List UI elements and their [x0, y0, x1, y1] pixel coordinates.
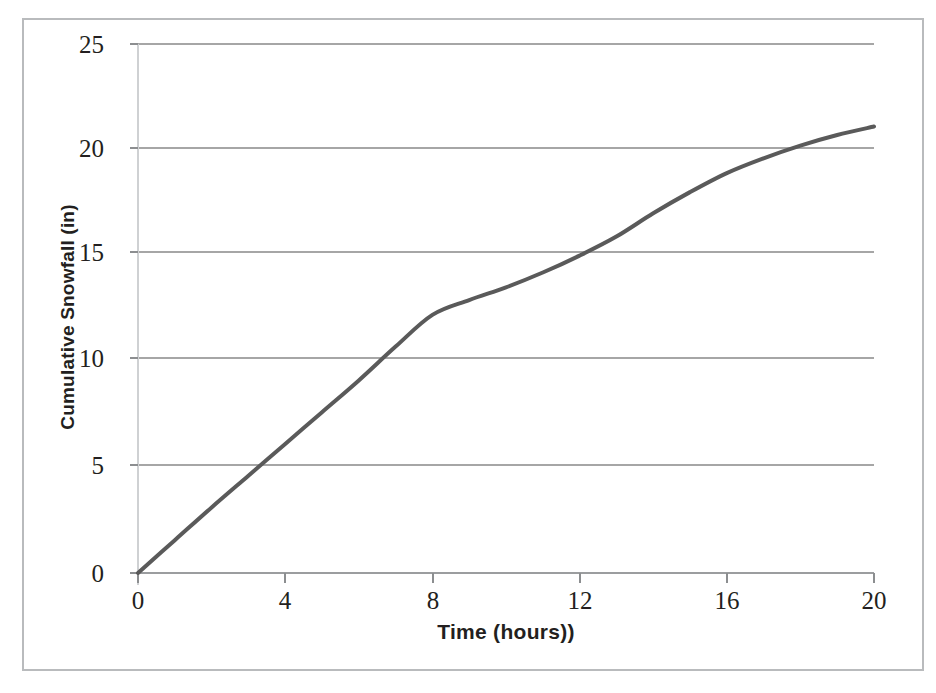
chart-svg-canvas: [0, 0, 936, 693]
chart-plot-area: 25 20 15 10 5 0 0 4 8 12 16 20 Cumulativ…: [0, 0, 936, 693]
y-axis-ticks: [130, 44, 138, 573]
gridlines-horizontal: [138, 44, 874, 465]
data-series-line: [138, 127, 874, 573]
x-axis-ticks: [138, 573, 874, 583]
